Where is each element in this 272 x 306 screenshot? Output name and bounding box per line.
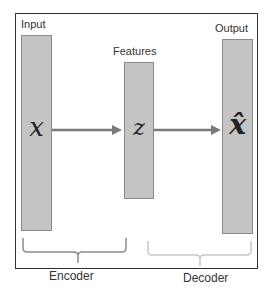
encoder-label: Encoder [49,269,94,283]
connectors [0,0,272,306]
decoder-brace [148,241,251,266]
arrow-features-to-output [154,125,221,135]
decoder-label: Decoder [183,271,228,285]
arrow-input-to-features [52,125,122,135]
encoder-brace [23,238,126,263]
